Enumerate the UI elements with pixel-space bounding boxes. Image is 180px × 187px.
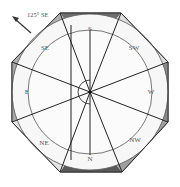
direction-label-w: W — [148, 88, 155, 96]
center-point — [89, 91, 92, 94]
direction-label-s: S — [88, 25, 92, 33]
compass-diagram: S SW W NW N NE E SE 125° SE — [0, 0, 180, 187]
pointer-arrow-icon — [12, 16, 31, 33]
direction-label-n: N — [87, 155, 92, 163]
direction-label-sw: SW — [129, 44, 140, 52]
direction-label-se: SE — [41, 44, 49, 52]
annotation-label: 125° SE — [27, 11, 49, 18]
direction-label-ne: NE — [39, 139, 48, 147]
direction-label-e: E — [25, 88, 29, 96]
direction-label-nw: NW — [129, 136, 141, 144]
